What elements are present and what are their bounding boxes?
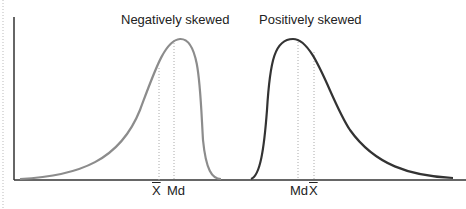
neg-mean-label: X xyxy=(152,183,161,198)
pos-median-label: Md xyxy=(290,183,308,198)
positive-skew-title: Positively skewed xyxy=(259,12,362,27)
negative-skew-title: Negatively skewed xyxy=(121,12,229,27)
neg-median-label: Md xyxy=(167,183,185,198)
pos-mean-label: X xyxy=(309,183,318,198)
negative-skew-curve xyxy=(20,39,221,179)
positive-skew-curve xyxy=(251,39,453,179)
skew-diagram xyxy=(0,0,466,209)
